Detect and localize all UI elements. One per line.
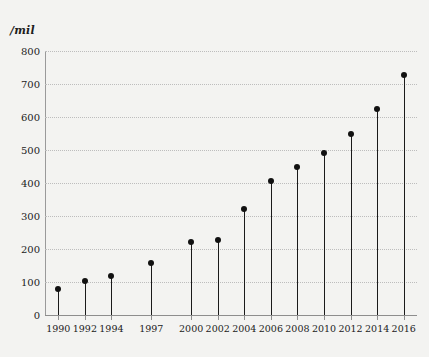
- data-stem: [151, 263, 152, 315]
- x-axis-tick-label: 2006: [259, 323, 283, 334]
- x-axis-tick-label: 1994: [99, 323, 123, 334]
- x-axis-tick: [297, 315, 298, 320]
- plot-area: 1990199219941997200020022004200620082010…: [45, 51, 417, 315]
- x-axis-tick: [58, 315, 59, 320]
- x-axis-tick: [377, 315, 378, 320]
- x-axis-tick-label: 2014: [365, 323, 389, 334]
- data-point-marker: [374, 106, 380, 112]
- gridline: [45, 282, 417, 283]
- x-axis-tick-label: 2008: [285, 323, 309, 334]
- data-point-marker: [188, 239, 194, 245]
- y-axis-tick-label: 700: [0, 79, 40, 90]
- gridline: [45, 117, 417, 118]
- data-point-marker: [148, 260, 154, 266]
- data-stem: [218, 240, 219, 315]
- x-axis-tick-label: 1990: [46, 323, 70, 334]
- data-stem: [404, 75, 405, 315]
- data-point-marker: [401, 72, 407, 78]
- data-stem: [191, 242, 192, 315]
- gridline: [45, 84, 417, 85]
- data-stem: [324, 153, 325, 315]
- gridline: [45, 216, 417, 217]
- x-axis-tick: [271, 315, 272, 320]
- x-axis-tick-label: 1997: [139, 323, 163, 334]
- y-axis-tick-label: 800: [0, 46, 40, 57]
- data-stem: [377, 109, 378, 315]
- gridline: [45, 183, 417, 184]
- x-axis-tick: [351, 315, 352, 320]
- data-point-marker: [268, 178, 274, 184]
- data-stem: [85, 281, 86, 315]
- data-point-marker: [241, 206, 247, 212]
- y-axis-tick-label: 300: [0, 211, 40, 222]
- x-axis-baseline: [45, 315, 417, 316]
- gridline: [45, 51, 417, 52]
- x-axis-tick: [111, 315, 112, 320]
- y-axis-tick-label: 100: [0, 277, 40, 288]
- y-axis-tick-label: 500: [0, 145, 40, 156]
- x-axis-tick: [244, 315, 245, 320]
- data-stem: [111, 276, 112, 315]
- x-axis-tick: [218, 315, 219, 320]
- x-axis-tick: [404, 315, 405, 320]
- gridline: [45, 150, 417, 151]
- y-axis-unit-label: /mil: [10, 24, 35, 37]
- x-axis-tick: [151, 315, 152, 320]
- data-stem: [297, 167, 298, 315]
- x-axis-tick-label: 2012: [338, 323, 362, 334]
- gridline: [45, 249, 417, 250]
- x-axis-tick-label: 2004: [232, 323, 256, 334]
- data-stem: [351, 134, 352, 315]
- data-stem: [271, 181, 272, 315]
- x-axis-tick-label: 2016: [392, 323, 416, 334]
- data-point-marker: [82, 278, 88, 284]
- data-point-marker: [215, 237, 221, 243]
- data-stem: [58, 289, 59, 315]
- y-axis-tick-label: 400: [0, 178, 40, 189]
- y-axis-tick-label: 0: [0, 310, 40, 321]
- data-point-marker: [348, 131, 354, 137]
- data-stem: [244, 209, 245, 315]
- y-axis-tick-label: 200: [0, 244, 40, 255]
- y-axis-tick-label: 600: [0, 112, 40, 123]
- data-point-marker: [108, 273, 114, 279]
- x-axis-tick-label: 2002: [206, 323, 230, 334]
- data-point-marker: [294, 164, 300, 170]
- stem-chart: /mil 0100200300400500600700800 199019921…: [0, 0, 429, 357]
- x-axis-tick-label: 2010: [312, 323, 336, 334]
- x-axis-tick-label: 2000: [179, 323, 203, 334]
- x-axis-tick: [85, 315, 86, 320]
- x-axis-tick: [324, 315, 325, 320]
- x-axis-tick-label: 1992: [73, 323, 97, 334]
- data-point-marker: [321, 150, 327, 156]
- data-point-marker: [55, 286, 61, 292]
- x-axis-tick: [191, 315, 192, 320]
- y-axis-tick-labels: 0100200300400500600700800: [0, 51, 40, 315]
